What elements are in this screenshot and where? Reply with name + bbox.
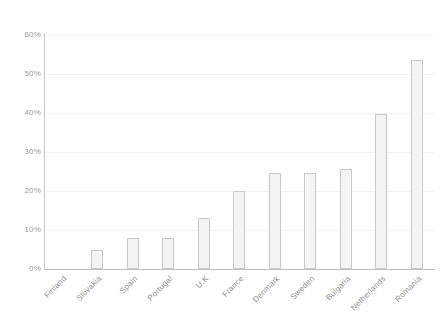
x-tick-label-finland: Finland (42, 274, 68, 300)
bar-series (44, 35, 435, 269)
bar-france (233, 191, 245, 269)
x-label-slot: Spain (115, 271, 151, 330)
bar-chart: 60% 50% 40% 30% 20% 10% 0% (0, 0, 443, 330)
bar-bulgaria (340, 169, 352, 269)
x-axis-line (44, 269, 435, 270)
bar-slot (115, 35, 151, 269)
x-label-slot: Denmark (257, 271, 293, 330)
y-tick-label: 10% (1, 226, 41, 234)
bar-slot (80, 35, 116, 269)
x-axis-labels: Finland Slovakia Spain Portugal U.K Fran… (44, 271, 435, 330)
x-label-slot: Sweden (293, 271, 329, 330)
bar-slot (222, 35, 258, 269)
bar-slot (186, 35, 222, 269)
y-tick-label: 30% (1, 148, 41, 156)
bar-slot (257, 35, 293, 269)
x-tick-label-uk: U.K (194, 274, 210, 290)
bar-denmark (269, 173, 281, 269)
x-tick-label-slovakia: Slovakia (75, 274, 104, 303)
x-label-slot: Finland (44, 271, 80, 330)
bar-slot (44, 35, 80, 269)
x-label-slot: U.K (186, 271, 222, 330)
x-label-slot: Romania (399, 271, 435, 330)
bar-slovakia (91, 250, 103, 269)
x-label-slot: France (222, 271, 258, 330)
y-tick-label: 40% (1, 109, 41, 117)
y-axis-ticks: 60% 50% 40% 30% 20% 10% 0% (0, 0, 41, 330)
bar-slot (293, 35, 329, 269)
bar-uk (198, 218, 210, 269)
y-tick-label: 50% (1, 70, 41, 78)
bar-spain (127, 238, 139, 269)
x-tick-label-sweden: Sweden (289, 274, 317, 302)
bar-romania (411, 60, 423, 269)
y-tick-label: 20% (1, 187, 41, 195)
x-tick-label-spain: Spain (118, 274, 140, 296)
bar-netherlands (375, 114, 387, 269)
x-tick-label-portugal: Portugal (146, 274, 175, 303)
bar-portugal (162, 238, 174, 269)
bar-slot (328, 35, 364, 269)
bar-sweden (304, 173, 316, 269)
x-tick-label-france: France (221, 274, 246, 299)
bar-slot (399, 35, 435, 269)
y-tick-label: 0% (1, 265, 41, 273)
x-label-slot: Netherlands (364, 271, 400, 330)
y-tick-label: 60% (1, 31, 41, 39)
x-label-slot: Slovakia (80, 271, 116, 330)
x-tick-label-bulgaria: Bulgaria (324, 274, 352, 302)
x-label-slot: Portugal (151, 271, 187, 330)
bar-slot (364, 35, 400, 269)
bar-slot (151, 35, 187, 269)
